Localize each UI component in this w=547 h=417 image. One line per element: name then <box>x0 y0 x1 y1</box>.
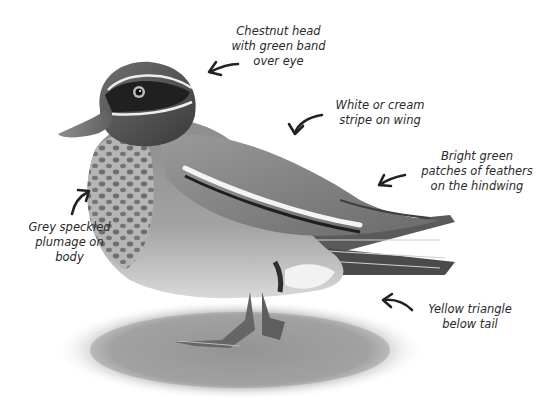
duck-bill <box>58 110 112 137</box>
annotation-hindwing-label: Bright green patches of feathers on the … <box>412 149 542 194</box>
annotation-tail-label: Yellow triangle below tail <box>415 302 525 332</box>
curved-arrow-up-right-body <box>72 190 89 214</box>
curved-arrow-left-hindwing <box>379 175 405 186</box>
annotation-wing-stripe-label: White or cream stripe on wing <box>325 98 435 128</box>
annotation-head-label: Chestnut head with green band over eye <box>226 24 331 69</box>
annotation-body-label: Grey speckled plumage on body <box>22 220 117 265</box>
curved-arrow-up-left-tail <box>383 294 412 310</box>
duck-head <box>99 62 195 146</box>
ground-patch <box>55 300 425 400</box>
annotated-duck-diagram: Chestnut head with green band over eye W… <box>0 0 547 417</box>
curved-arrow-down-left-wing <box>289 115 322 134</box>
